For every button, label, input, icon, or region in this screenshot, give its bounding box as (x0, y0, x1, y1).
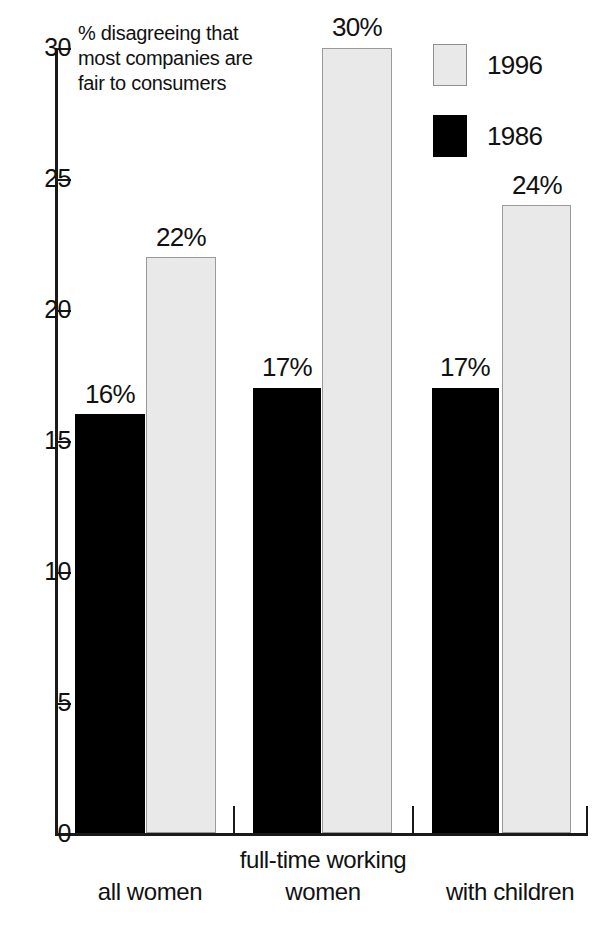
chart-note: % disagreeing that most companies are fa… (78, 21, 308, 96)
legend-swatch-1996-icon (433, 44, 467, 86)
bar-chart: 30 25 20 15 10 5 0 16% 22% 17% 30% 17% (0, 0, 611, 927)
bar-all-women-1986 (75, 414, 145, 833)
bar-fulltime-working-women-1986 (253, 388, 321, 833)
legend-item-1986: 1986 (433, 115, 603, 157)
bar-fulltime-working-women-1996 (322, 48, 392, 833)
legend-item-1996: 1996 (433, 44, 603, 86)
y-tick-label: 20 (27, 297, 71, 322)
y-tick-label: 25 (27, 166, 71, 191)
y-tick-label: 5 (27, 690, 71, 715)
x-axis-end-tick (586, 806, 588, 833)
bar-all-women-1996 (146, 257, 216, 833)
y-tick-label: 10 (27, 559, 71, 584)
legend-label-1996: 1996 (487, 52, 542, 78)
y-tick-label: 30 (27, 35, 71, 60)
category-label-with-children: with children (420, 878, 600, 906)
chart-legend: 1996 1986 (433, 44, 603, 186)
category-label-fulltime-working-women-line2: women (228, 878, 418, 906)
legend-swatch-1986-icon (433, 115, 467, 157)
x-axis-group-separator-tick (412, 806, 414, 833)
y-tick-label: 15 (27, 428, 71, 453)
category-label-fulltime-working-women-line1: full-time working (228, 846, 418, 874)
category-label-all-women: all women (65, 878, 235, 906)
bar-value-fulltime-working-women-1996: 30% (307, 14, 407, 40)
chart-note-line-1: % disagreeing that (78, 21, 308, 46)
bar-with-children-1996 (502, 205, 571, 833)
x-axis-line (55, 833, 588, 836)
bar-value-all-women-1986: 16% (60, 381, 160, 407)
chart-note-line-3: fair to consumers (78, 71, 308, 96)
bar-value-all-women-1996: 22% (131, 224, 231, 250)
y-tick-label: 0 (27, 821, 71, 846)
chart-note-line-2: most companies are (78, 46, 308, 71)
bar-with-children-1986 (432, 388, 499, 833)
bar-value-with-children-1986: 17% (415, 354, 515, 380)
x-axis-group-separator-tick (233, 806, 235, 833)
legend-label-1986: 1986 (487, 123, 542, 149)
